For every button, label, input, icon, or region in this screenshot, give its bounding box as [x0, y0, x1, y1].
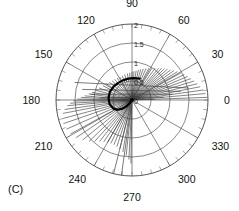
rim-tick: [122, 25, 123, 29]
rim-tick: [176, 157, 179, 160]
rim-tick: [103, 30, 105, 34]
angle-label-180: 180: [22, 94, 40, 106]
rim-tick: [203, 90, 207, 91]
rim-tick: [66, 136, 70, 138]
angle-label-0: 0: [224, 94, 230, 106]
rim-tick: [194, 62, 198, 64]
rim-tick: [151, 27, 152, 31]
rim-tick: [168, 162, 170, 166]
angle-label-60: 60: [178, 14, 190, 26]
angle-label-300: 300: [178, 173, 196, 185]
angle-label-240: 240: [68, 173, 86, 185]
rim-tick: [112, 169, 113, 173]
radial-label-1.5: 1.5: [134, 41, 144, 48]
radial-label-1: 1: [134, 60, 138, 67]
rim-tick: [183, 151, 186, 154]
rim-tick: [62, 127, 66, 129]
rim-tick: [201, 80, 205, 81]
polar-chart-canvas: 0306090120150180210240270300330 00.511.5…: [0, 0, 239, 211]
angle-label-30: 30: [212, 48, 224, 60]
rim-tick: [86, 157, 89, 160]
rim-tick: [59, 80, 63, 81]
rim-tick: [201, 119, 205, 120]
rim-tick: [72, 54, 75, 57]
radial-label-0: 0: [134, 98, 138, 105]
angle-label-120: 120: [77, 14, 95, 26]
rim-tick: [198, 71, 202, 73]
rim-tick: [176, 40, 179, 43]
rim-tick: [86, 40, 89, 43]
grid-spoke-300: [132, 100, 170, 166]
rim-tick: [141, 25, 142, 29]
angle-label-150: 150: [35, 48, 53, 60]
rim-tick: [112, 27, 113, 31]
rim-tick: [103, 166, 105, 170]
rim-tick: [183, 46, 186, 49]
rim-tick: [194, 136, 198, 138]
grid-spoke-330: [132, 100, 198, 138]
rim-tick: [57, 90, 61, 91]
radial-label-0.5: 0.5: [134, 79, 144, 86]
rim-tick: [168, 34, 170, 38]
angle-label-210: 210: [35, 140, 53, 152]
panel-caption: (C): [8, 183, 23, 195]
rim-tick: [189, 54, 192, 57]
rim-tick: [62, 71, 66, 73]
angle-label-330: 330: [212, 140, 230, 152]
rim-tick: [94, 162, 96, 166]
rim-tick: [159, 30, 161, 34]
rim-tick: [59, 119, 63, 120]
polar-plot-figure: 0306090120150180210240270300330 00.511.5…: [0, 0, 239, 211]
rim-tick: [203, 109, 207, 110]
series-horizontal-chords: [75, 82, 189, 100]
rim-tick: [78, 46, 81, 49]
angle-label-90: 90: [126, 0, 138, 9]
rim-tick: [198, 127, 202, 129]
rim-tick: [159, 166, 161, 170]
rim-tick: [189, 144, 192, 147]
rim-tick: [94, 34, 96, 38]
rim-tick: [78, 151, 81, 154]
rim-tick: [66, 62, 70, 64]
rim-tick: [57, 109, 61, 110]
rim-tick: [72, 144, 75, 147]
angle-label-270: 270: [123, 191, 141, 203]
rim-tick: [151, 169, 152, 173]
rim-tick: [141, 171, 142, 175]
radial-label-2: 2: [134, 22, 138, 29]
